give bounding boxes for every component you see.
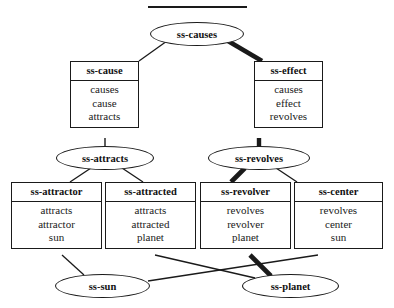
slot-item: sun [16,231,97,245]
node-ss-planet-label: ss-planet [271,281,311,292]
edge-revolves-center [276,168,297,182]
node-ss-attracted[interactable]: ss-attracted attracts attracted planet [105,182,196,249]
node-ss-effect-slots: causes effect revolves [255,81,322,127]
slot-item: effect [259,97,318,111]
node-ss-center-header: ss-center [295,183,382,202]
slot-item: sun [299,231,378,245]
node-ss-center-slots: revolves center sun [295,202,382,248]
node-ss-attracted-slots: attracts attracted planet [106,202,195,248]
slot-item: attracts [16,204,97,218]
slot-item: planet [110,231,191,245]
slot-item: causes [75,83,134,97]
node-ss-attractor-header: ss-attractor [12,183,101,202]
node-ss-revolves[interactable]: ss-revolves [208,146,310,170]
slot-item: cause [75,97,134,111]
slot-item: revolver [205,218,286,232]
edge-attracts-attracted [122,168,143,182]
node-ss-attracts-label: ss-attracts [82,153,128,164]
node-ss-cause-header: ss-cause [71,62,138,81]
node-ss-revolver[interactable]: ss-revolver revolves revolver planet [200,182,291,249]
slot-item: attracts [110,204,191,218]
node-ss-cause-slots: causes cause attracts [71,81,138,127]
node-ss-attracts[interactable]: ss-attracts [56,146,154,170]
node-ss-causes-label: ss-causes [177,29,217,40]
node-ss-effect-header: ss-effect [255,62,322,81]
node-ss-revolves-label: ss-revolves [235,153,283,164]
edge-revolves-revolver [231,168,245,182]
edge-attractor-sun [62,255,84,275]
slot-item: attracted [110,218,191,232]
edge-causes-cause [139,41,167,61]
slot-item: attracts [75,110,134,124]
node-ss-sun[interactable]: ss-sun [55,274,150,298]
node-ss-attracted-header: ss-attracted [106,183,195,202]
slot-item: causes [259,83,318,97]
slot-item: revolves [259,110,318,124]
node-ss-revolver-header: ss-revolver [201,183,290,202]
slot-item: center [299,218,378,232]
node-ss-cause[interactable]: ss-cause causes cause attracts [70,61,139,128]
slot-item: revolves [299,204,378,218]
node-ss-sun-label: ss-sun [89,281,116,292]
node-ss-attractor-slots: attracts attractor sun [12,202,101,248]
node-ss-attractor[interactable]: ss-attractor attracts attractor sun [11,182,102,249]
slot-item: planet [205,231,286,245]
node-ss-effect[interactable]: ss-effect causes effect revolves [254,61,323,128]
edge-attracts-attractor [70,168,91,182]
node-ss-revolver-slots: revolves revolver planet [201,202,290,248]
edge-causes-effect [228,41,262,61]
slot-item: attractor [16,218,97,232]
node-ss-causes[interactable]: ss-causes [150,22,244,46]
slot-item: revolves [205,204,286,218]
node-ss-center[interactable]: ss-center revolves center sun [294,182,383,249]
node-ss-planet[interactable]: ss-planet [242,274,339,298]
